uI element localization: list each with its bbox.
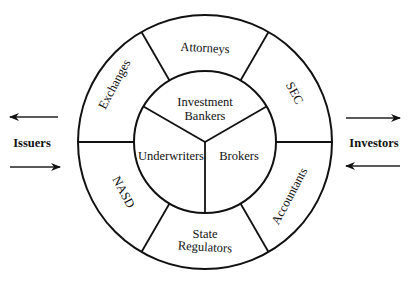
divider-attorneys-sec bbox=[241, 32, 269, 81]
divider-state-nasd bbox=[142, 204, 170, 253]
investors-group: Investors bbox=[346, 118, 400, 166]
label-accountants: Accountants bbox=[269, 165, 311, 227]
label-issuers: Issuers bbox=[13, 136, 51, 150]
label-bankers: Bankers bbox=[185, 109, 226, 123]
divider-exchanges-attorneys bbox=[142, 32, 170, 81]
label-sec: SEC bbox=[283, 80, 306, 107]
divider-accountants-state bbox=[241, 204, 269, 253]
securities-market-diagram: Investment Bankers Underwriters Brokers … bbox=[0, 0, 410, 287]
label-regulators: Regulators bbox=[178, 239, 233, 256]
label-attorneys: Attorneys bbox=[180, 40, 230, 57]
label-underwriters: Underwriters bbox=[138, 149, 204, 163]
label-exchanges: Exchanges bbox=[96, 57, 134, 111]
label-nasd: NASD bbox=[109, 174, 137, 211]
label-investment: Investment bbox=[177, 95, 233, 109]
label-investors: Investors bbox=[349, 136, 398, 150]
label-brokers: Brokers bbox=[219, 149, 259, 163]
issuers-group: Issuers bbox=[10, 117, 60, 167]
